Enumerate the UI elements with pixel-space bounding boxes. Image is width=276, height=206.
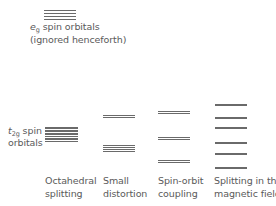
eg-level-line <box>44 19 76 21</box>
t2g-level-line <box>45 127 78 129</box>
t2g-level-line <box>45 133 78 135</box>
eg-label-text: spin orbitals <box>40 21 100 32</box>
magnetic-level-line <box>215 104 247 106</box>
t2g-label-line2: orbitals <box>8 137 43 149</box>
octahedral-label-2: splitting <box>45 188 83 200</box>
eg-level-line <box>44 16 76 18</box>
spin-orbit-label-1: Spin-orbit <box>158 175 203 187</box>
t2g-level-line <box>45 138 78 140</box>
small-distortion-label-2: distortion <box>103 188 147 200</box>
magnetic-level-line <box>215 117 247 119</box>
magnetic-label-1: Splitting in the <box>214 175 276 187</box>
spin-orbit-level-line <box>158 139 190 141</box>
small-distortion-level-line <box>103 117 135 119</box>
octahedral-label-1: Octahedral <box>45 175 97 187</box>
spin-orbit-label-2: coupling <box>158 188 198 200</box>
small-distortion-label-1: Small <box>103 175 129 187</box>
t2g-label-text: spin <box>20 125 42 136</box>
magnetic-level-line <box>215 153 247 155</box>
t2g-level-line <box>45 136 78 138</box>
eg-level-line <box>44 10 76 12</box>
small-distortion-level-line <box>103 151 135 153</box>
eg-note: (ignored henceforth) <box>30 34 126 46</box>
magnetic-label-2: magnetic field <box>214 188 276 200</box>
magnetic-level-line <box>215 127 247 129</box>
spin-orbit-level-line <box>158 162 190 164</box>
magnetic-level-line <box>215 142 247 144</box>
eg-level-line <box>44 13 76 15</box>
t2g-level-line <box>45 130 78 132</box>
magnetic-level-line <box>215 167 247 169</box>
t2g-level-line <box>45 141 78 143</box>
spin-orbit-level-line <box>158 113 190 115</box>
